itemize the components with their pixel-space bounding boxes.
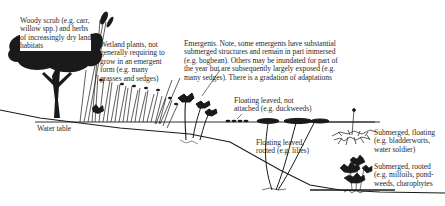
label-woody-scrub: Woody scrub (e.g. carr, willow spp.) and… [20, 17, 91, 51]
label-floating-not-attached: Floating leaved, not attached (e.g. duck… [234, 97, 312, 114]
duckweeds-icon [226, 114, 249, 122]
label-water-table: Water table [37, 125, 71, 133]
label-emergents: Emergents. Note, some emergents have sub… [184, 40, 338, 82]
label-wetland-plants: Wetland plants, not generally requiring … [100, 41, 165, 83]
submerged-rooted-plant-icon [340, 155, 372, 193]
submerged-floating-plant-icon [332, 109, 376, 146]
label-submerged-floating: Submerged, floating (e.g. bladderworts, … [374, 129, 435, 154]
label-floating-rooted: Floating leaved, rooted (e.g. lilies) [256, 139, 309, 156]
wetland-zonation-diagram: Woody scrub (e.g. carr, willow spp.) and… [0, 0, 445, 206]
label-submerged-rooted: Submerged, rooted (e.g. milfoils, pond- … [374, 163, 433, 188]
reed-seedhead-icon [98, 10, 114, 28]
